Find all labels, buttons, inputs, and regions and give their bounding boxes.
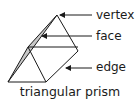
vertex-label: vertex <box>96 9 134 21</box>
face-label: face <box>96 30 122 42</box>
shaded-face <box>8 15 57 82</box>
edge-label: edge <box>96 61 126 73</box>
triangular-prism-diagram: vertex face edge triangular prism <box>0 0 140 102</box>
edge-bottom-right <box>46 51 78 82</box>
prism-shape <box>8 15 78 82</box>
diagram-caption: triangular prism <box>0 86 140 99</box>
edge-back-right <box>57 15 78 51</box>
edge-front-right <box>28 47 46 82</box>
